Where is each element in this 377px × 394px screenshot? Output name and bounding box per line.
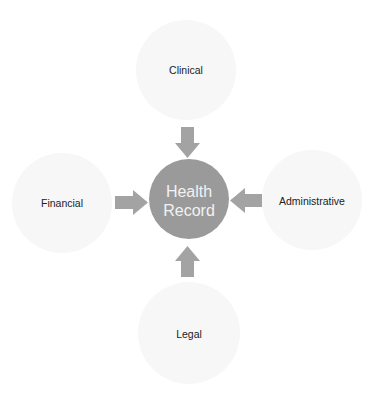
hub-health-record: Health Record xyxy=(149,159,229,239)
clinical-label: Clinical xyxy=(169,64,203,76)
node-financial: Financial xyxy=(12,153,112,253)
health-record-diagram: Clinical Financial Administrative Legal … xyxy=(0,0,377,394)
legal-label: Legal xyxy=(176,328,202,340)
administrative-label: Administrative xyxy=(279,195,345,207)
node-clinical: Clinical xyxy=(136,20,236,120)
hub-label-line-2: Record xyxy=(163,202,215,219)
arrow-left-icon xyxy=(230,188,262,213)
node-administrative: Administrative xyxy=(262,150,362,250)
hub-label-line-1: Health xyxy=(166,183,212,200)
arrow-right-icon xyxy=(115,190,148,215)
financial-label: Financial xyxy=(41,197,83,209)
node-legal: Legal xyxy=(138,282,240,384)
arrow-down-icon xyxy=(175,127,200,158)
arrow-up-icon xyxy=(175,246,200,277)
